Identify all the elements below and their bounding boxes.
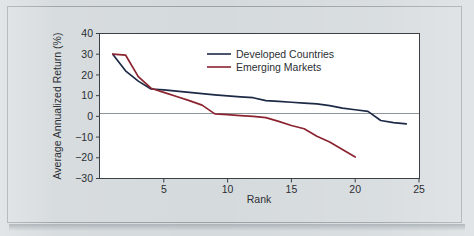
line-chart: −30−20−10010203040 510152025 Rank Averag…: [0, 0, 474, 236]
x-tick-label: 25: [413, 183, 425, 195]
y-axis-ticks: −30−20−10010203040: [75, 27, 100, 184]
y-axis-title: Average Annualized Return (%): [51, 33, 63, 180]
y-tick-label: 10: [81, 89, 93, 101]
y-tick-label: 40: [81, 27, 93, 39]
legend-label-emerging-markets: Emerging Markets: [236, 61, 321, 73]
y-tick-label: 0: [87, 110, 93, 122]
x-axis-ticks: 510152025: [161, 179, 425, 195]
y-tick-label: −30: [75, 172, 93, 184]
x-tick-label: 15: [286, 183, 298, 195]
legend-label-developed-countries: Developed Countries: [236, 48, 334, 60]
x-tick-label: 5: [161, 183, 167, 195]
x-tick-label: 20: [349, 183, 361, 195]
x-axis-title: Rank: [247, 193, 272, 205]
x-tick-label: 10: [222, 183, 234, 195]
y-tick-label: −10: [75, 131, 93, 143]
y-tick-label: −20: [75, 151, 93, 163]
figure-container: −30−20−10010203040 510152025 Rank Averag…: [0, 0, 474, 236]
y-tick-label: 30: [81, 48, 93, 60]
y-tick-label: 20: [81, 69, 93, 81]
